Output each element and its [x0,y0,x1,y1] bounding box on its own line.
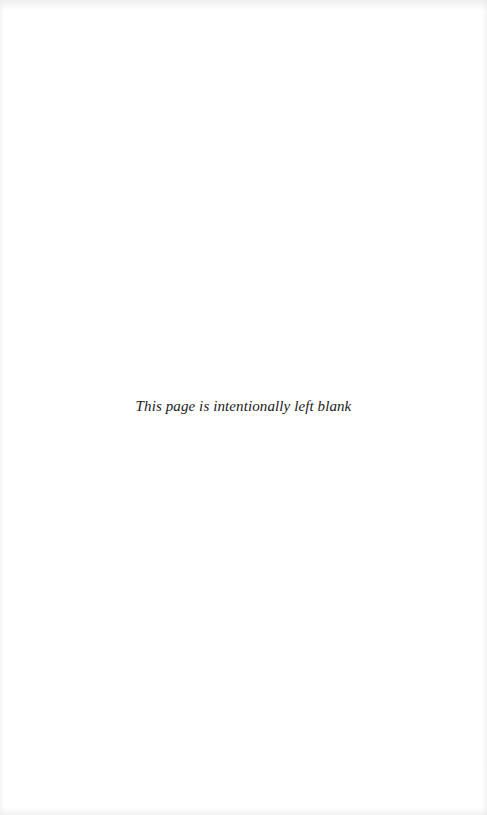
blank-page-notice: This page is intentionally left blank [0,398,487,415]
document-page: This page is intentionally left blank [0,0,487,815]
scan-shadow-top [0,0,487,10]
scan-shadow-bottom [0,807,487,815]
